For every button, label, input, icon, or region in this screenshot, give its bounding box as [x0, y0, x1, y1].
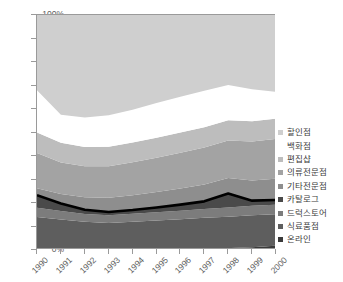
legend-item-label: 기타전문점 [287, 182, 327, 191]
legend-swatch-icon [278, 170, 283, 175]
legend-item-label: 식료품점 [287, 222, 319, 231]
legend-swatch-icon [278, 197, 283, 202]
legend-item-label: 카탈로그 [287, 195, 319, 204]
legend-item-label: 할인점 [287, 128, 311, 137]
x-axis-tick [203, 249, 204, 254]
x-axis-tick [108, 249, 109, 254]
x-axis-tick [132, 249, 133, 254]
legend-swatch-icon [278, 224, 283, 229]
legend-swatch-icon [278, 130, 283, 135]
plot-area [36, 14, 275, 249]
x-axis-tick [156, 249, 157, 254]
chart-legend: 할인점백화점편집샵의류전문점기타전문점카탈로그드럭스토어식료품점온라인 [278, 126, 343, 247]
area-series-group [37, 15, 275, 249]
legend-swatch-icon [278, 157, 283, 162]
stacked-area-chart: 100%90%80%70%60%50%40%30%20%10%0% 199019… [0, 0, 343, 282]
legend-item[interactable]: 카탈로그 [278, 193, 343, 206]
legend-item-label: 온라인 [287, 235, 311, 244]
x-axis-tick [84, 249, 85, 254]
legend-swatch-icon [278, 237, 283, 242]
legend-item[interactable]: 편집샵 [278, 153, 343, 166]
legend-item[interactable]: 온라인 [278, 233, 343, 246]
legend-item[interactable]: 드럭스토어 [278, 206, 343, 219]
legend-item-label: 편집샵 [287, 155, 311, 164]
legend-item-label: 의류전문점 [287, 168, 327, 177]
legend-item[interactable]: 할인점 [278, 126, 343, 139]
legend-item-label: 드럭스토어 [287, 209, 327, 218]
x-axis-tick [36, 249, 37, 254]
legend-swatch-icon [278, 211, 283, 216]
legend-item[interactable]: 백화점 [278, 139, 343, 152]
legend-item[interactable]: 식료품점 [278, 220, 343, 233]
x-axis-tick [179, 249, 180, 254]
legend-item[interactable]: 기타전문점 [278, 180, 343, 193]
x-axis-tick [60, 249, 61, 254]
legend-item[interactable]: 의류전문점 [278, 166, 343, 179]
x-axis-tick [251, 249, 252, 254]
x-axis-tick [275, 249, 276, 254]
x-axis-tick [227, 249, 228, 254]
legend-swatch-icon [278, 184, 283, 189]
legend-item-label: 백화점 [287, 142, 311, 151]
legend-swatch-icon [278, 144, 283, 149]
